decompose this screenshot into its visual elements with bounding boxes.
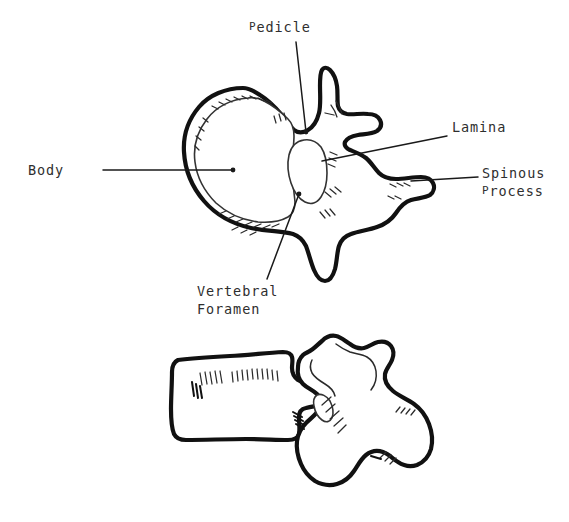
label-vertebral-foramen-line1: Vertebral: [197, 283, 278, 299]
label-spinous-process-rest: rocess: [490, 183, 544, 199]
leader-pedicle: [296, 42, 306, 132]
label-body: Body: [28, 162, 64, 178]
label-pedicle-rest: edicle: [257, 19, 311, 35]
label-lamina: Lamina: [452, 119, 506, 135]
leader-body-dot: [231, 168, 236, 173]
lateral-inferior-notch-hatching-heavy: [371, 456, 381, 459]
label-pedicle: Pedicle: [249, 19, 311, 35]
label-spinous-process-line2: Process: [482, 183, 544, 199]
leader-vertebral-foramen-dot: [297, 192, 302, 197]
vertebra-diagram: Body Pedicle Lamina Spinous Process Vert…: [0, 0, 569, 522]
label-pedicle-cap: P: [249, 20, 257, 33]
superior-view: [103, 42, 478, 281]
label-vertebral-foramen-line2: Foramen: [197, 301, 260, 317]
leader-pedicle-dot: [304, 130, 309, 135]
label-spinous-process-cap: P: [482, 184, 490, 197]
figure-root: Body Pedicle Lamina Spinous Process Vert…: [0, 0, 569, 522]
label-spinous-process-line1: Spinous: [482, 165, 545, 181]
lateral-view: [171, 336, 432, 485]
